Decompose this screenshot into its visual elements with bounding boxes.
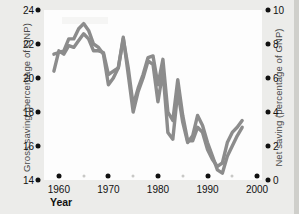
series-line-net-saving <box>54 24 242 174</box>
series-line-gross-saving <box>54 34 242 167</box>
chart-figure: Gross saving (percentage of GNP) Net sav… <box>0 0 299 214</box>
chart-lines <box>0 0 299 214</box>
page-edge-strip <box>294 0 299 214</box>
